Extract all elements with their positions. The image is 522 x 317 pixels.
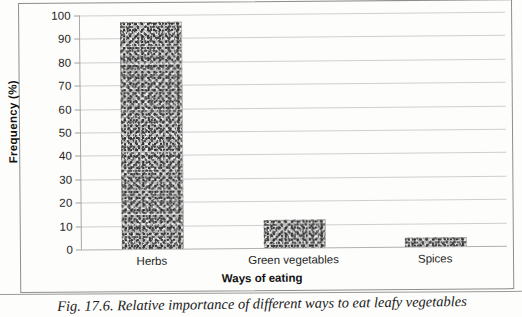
y-tick-80 xyxy=(74,62,80,63)
y-tick-100 xyxy=(74,16,80,17)
bar-green-vegetables[interactable] xyxy=(263,219,325,248)
y-tick-label: 0 xyxy=(66,244,73,256)
y-tick-50 xyxy=(75,133,81,134)
y-tick-label: 10 xyxy=(59,220,72,232)
y-tick-0 xyxy=(76,250,82,251)
bar-chart: Frequency (%) 0102030405060708090100 Way… xyxy=(0,0,522,297)
bar-spices[interactable] xyxy=(405,237,467,247)
y-tick-90 xyxy=(74,39,80,40)
y-tick-40 xyxy=(75,156,81,157)
x-tick-label: Green vegetables xyxy=(248,253,339,266)
y-tick-label: 50 xyxy=(59,127,72,139)
y-tick-60 xyxy=(75,109,81,110)
y-tick-label: 40 xyxy=(59,150,72,162)
y-tick-10 xyxy=(76,226,82,227)
gridline-100 xyxy=(80,12,505,17)
plot-area: 0102030405060708090100 xyxy=(79,12,506,250)
y-axis-title: Frequency (%) xyxy=(6,80,21,163)
y-tick-70 xyxy=(75,86,81,87)
y-tick-label: 90 xyxy=(58,33,71,45)
y-tick-30 xyxy=(75,179,81,180)
y-tick-label: 100 xyxy=(51,10,71,22)
x-tick-label: Herbs xyxy=(136,255,167,267)
x-tick-label: Spices xyxy=(418,252,453,264)
x-axis-title: Ways of eating xyxy=(1,270,522,287)
bar-herbs[interactable] xyxy=(120,22,184,250)
y-tick-label: 30 xyxy=(59,173,72,185)
y-tick-label: 20 xyxy=(59,197,72,209)
y-tick-label: 80 xyxy=(58,56,71,68)
y-tick-20 xyxy=(76,203,82,204)
y-tick-label: 60 xyxy=(58,103,71,115)
y-tick-label: 70 xyxy=(58,80,71,92)
